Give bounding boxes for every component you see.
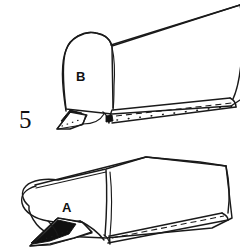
upper-post-nub — [106, 115, 113, 122]
figure-number-label: 5 — [19, 107, 32, 132]
part-label-b: B — [76, 70, 85, 83]
upper-view-group — [57, 4, 240, 129]
illustration-canvas: B A 5 — [0, 0, 240, 248]
line-drawing — [0, 0, 240, 248]
part-label-a: A — [62, 201, 71, 214]
lower-view-group — [22, 157, 232, 246]
upper-body-shape — [63, 4, 240, 114]
